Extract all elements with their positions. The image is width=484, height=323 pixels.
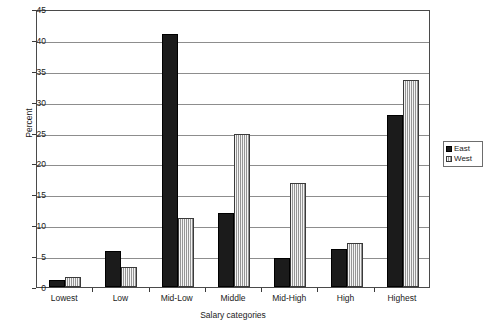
- legend-swatch-west-icon: [446, 156, 452, 162]
- legend-item-west[interactable]: West: [446, 154, 480, 164]
- y-tick-mark: [32, 257, 36, 258]
- bar-west-mid-high: [290, 183, 306, 287]
- y-tick-mark: [32, 72, 36, 73]
- bar-east-mid-low: [162, 34, 178, 287]
- legend-label: West: [454, 155, 472, 163]
- bar-west-low: [121, 267, 137, 287]
- gridline: [37, 73, 429, 74]
- y-tick-mark: [32, 134, 36, 135]
- bar-chart: Percent 051015202530354045 LowestLowMid-…: [0, 0, 484, 323]
- bar-east-lowest: [49, 280, 65, 287]
- gridline: [37, 135, 429, 136]
- chart-legend: EastWest: [443, 141, 483, 167]
- x-tick-label: Lowest: [36, 293, 92, 303]
- y-tick-mark: [32, 41, 36, 42]
- x-tick-label: Mid-High: [261, 293, 317, 303]
- x-axis-title: Salary categories: [0, 310, 466, 320]
- plot-area: [36, 10, 430, 288]
- bar-west-lowest: [65, 277, 81, 287]
- y-tick-mark: [32, 164, 36, 165]
- bar-west-high: [347, 243, 363, 287]
- legend-swatch-east-icon: [446, 146, 452, 152]
- x-tick-mark: [205, 288, 206, 292]
- x-tick-mark: [261, 288, 262, 292]
- bar-west-highest: [403, 80, 419, 287]
- bar-east-middle: [218, 213, 234, 287]
- x-tick-mark: [374, 288, 375, 292]
- y-tick-mark: [32, 226, 36, 227]
- y-tick-mark: [32, 10, 36, 11]
- legend-item-east[interactable]: East: [446, 144, 480, 154]
- y-tick-mark: [32, 288, 36, 289]
- bar-east-low: [105, 251, 121, 287]
- y-tick-mark: [32, 195, 36, 196]
- y-tick-mark: [32, 103, 36, 104]
- bar-east-high: [331, 249, 347, 287]
- x-tick-label: Mid-Low: [149, 293, 205, 303]
- bar-east-mid-high: [274, 258, 290, 287]
- gridline: [37, 42, 429, 43]
- gridline: [37, 165, 429, 166]
- bar-east-highest: [387, 115, 403, 287]
- x-tick-label: High: [317, 293, 373, 303]
- gridline: [37, 104, 429, 105]
- bar-west-middle: [234, 134, 250, 287]
- x-tick-label: Low: [92, 293, 148, 303]
- x-tick-mark: [317, 288, 318, 292]
- bar-west-mid-low: [178, 218, 194, 287]
- gridline: [37, 196, 429, 197]
- x-tick-mark: [92, 288, 93, 292]
- x-tick-label: Middle: [205, 293, 261, 303]
- x-tick-mark: [149, 288, 150, 292]
- legend-label: East: [454, 145, 470, 153]
- x-tick-label: Highest: [374, 293, 430, 303]
